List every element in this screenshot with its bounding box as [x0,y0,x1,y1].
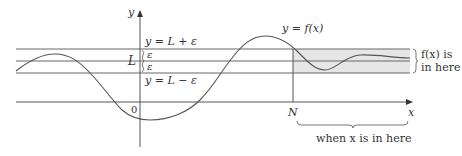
band-note-line1: f(x) is [421,48,453,61]
epsilon-upper-label: ε [147,49,152,60]
upper-bound-label: y = L + ε [144,35,197,48]
lower-bound-label: y = L − ε [144,74,197,87]
x-range-note: when x is in here [316,132,411,145]
x-axis-label: x [408,106,415,119]
epsilon-lower-label: ε [147,61,152,72]
limit-diagram: y y = L + ε L ε ε y = L − ε 0 y = f(x) N… [0,0,462,156]
x-axis-arrow-icon [406,99,413,105]
limit-label: L [127,54,136,68]
origin-label: 0 [131,104,137,115]
curve-label: y = f(x) [281,22,323,35]
x-range-brace-icon [297,121,408,128]
y-axis-label: y [127,6,135,19]
y-axis-arrow-icon [137,10,143,17]
n-label: N [287,106,298,119]
band-note-line2: in here [421,61,460,74]
band-brace-icon [413,49,418,73]
